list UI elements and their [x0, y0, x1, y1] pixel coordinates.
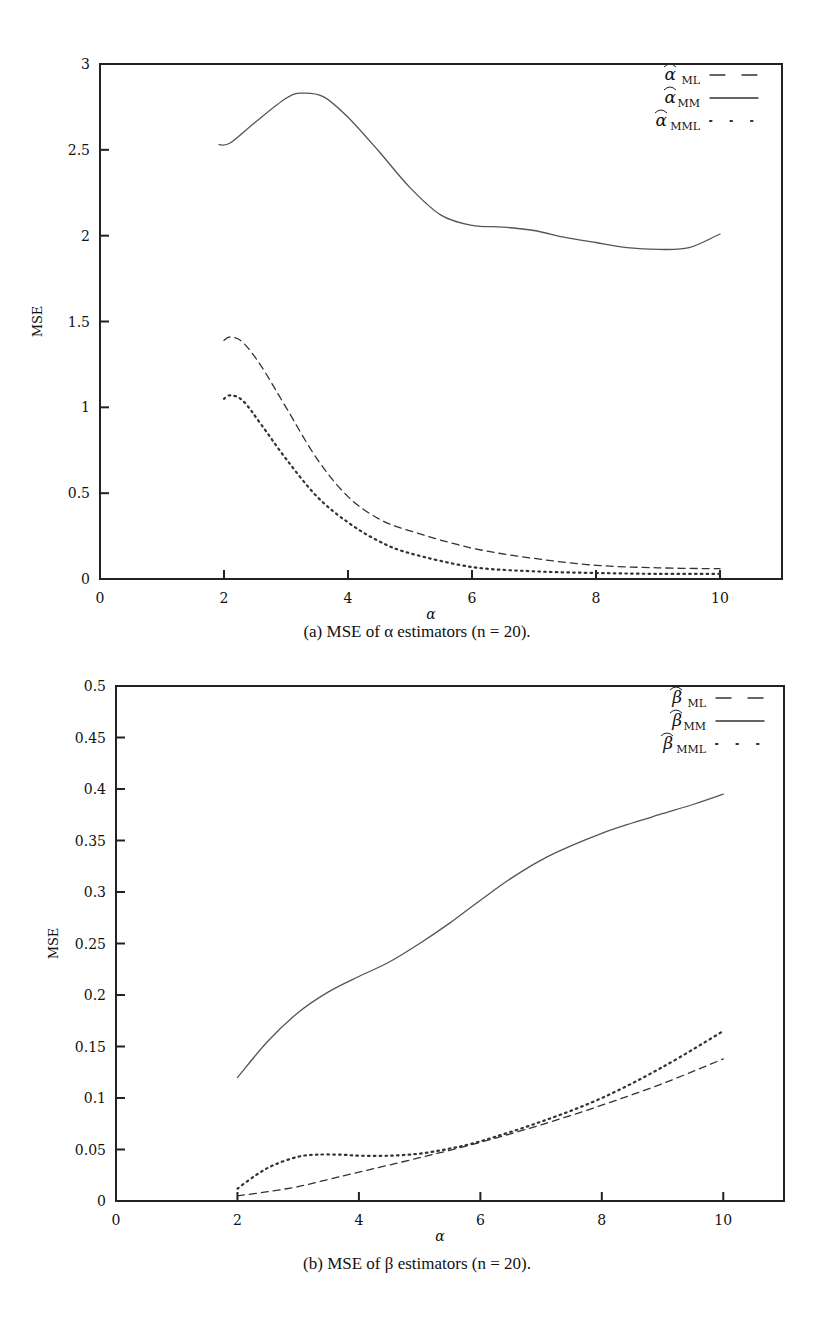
- x-axis-label: α: [435, 1228, 445, 1244]
- y-tick-label: 0: [97, 1193, 106, 1209]
- y-tick-label: 0.2: [84, 987, 106, 1003]
- x-tick-label: 8: [597, 1212, 606, 1228]
- y-tick-label: 0.45: [75, 730, 106, 746]
- y-tick-label: 0.05: [75, 1142, 106, 1158]
- legend-item-mm: βMM: [670, 710, 764, 733]
- caption-b: (b) MSE of β estimators (n = 20).: [0, 1254, 834, 1274]
- series-solid-line: [238, 794, 724, 1077]
- legend-subscript: MML: [676, 743, 707, 756]
- series-dashed-line: [238, 1059, 724, 1196]
- legend-symbol: β: [662, 733, 673, 753]
- plot-frame: [116, 686, 784, 1201]
- plot-b-mse-beta: 00.050.10.150.20.250.30.350.40.450.50246…: [0, 0, 834, 1341]
- y-axis-label: MSE: [46, 928, 61, 960]
- y-tick-label: 0.1: [84, 1090, 106, 1106]
- y-tick-label: 0.15: [75, 1039, 106, 1055]
- y-tick-label: 0.25: [75, 936, 106, 952]
- legend-item-ml: βML: [670, 687, 764, 710]
- x-tick-label: 0: [112, 1212, 121, 1228]
- series-dotted-line: [238, 1031, 724, 1189]
- y-tick-label: 0.35: [75, 833, 106, 849]
- x-tick-label: 2: [233, 1212, 242, 1228]
- y-tick-label: 0.4: [84, 781, 106, 797]
- legend-symbol: β: [671, 710, 682, 730]
- y-tick-label: 0.5: [84, 678, 106, 694]
- legend-subscript: ML: [687, 697, 706, 710]
- legend-subscript: MM: [683, 720, 706, 733]
- legend-item-mml: βMML: [661, 733, 764, 756]
- y-tick-label: 0.3: [84, 884, 106, 900]
- figure-b: 00.050.10.150.20.250.30.350.40.450.50246…: [0, 0, 834, 1341]
- legend-symbol: β: [671, 687, 682, 707]
- x-tick-label: 4: [354, 1212, 363, 1228]
- x-tick-label: 10: [714, 1212, 732, 1228]
- x-tick-label: 6: [476, 1212, 485, 1228]
